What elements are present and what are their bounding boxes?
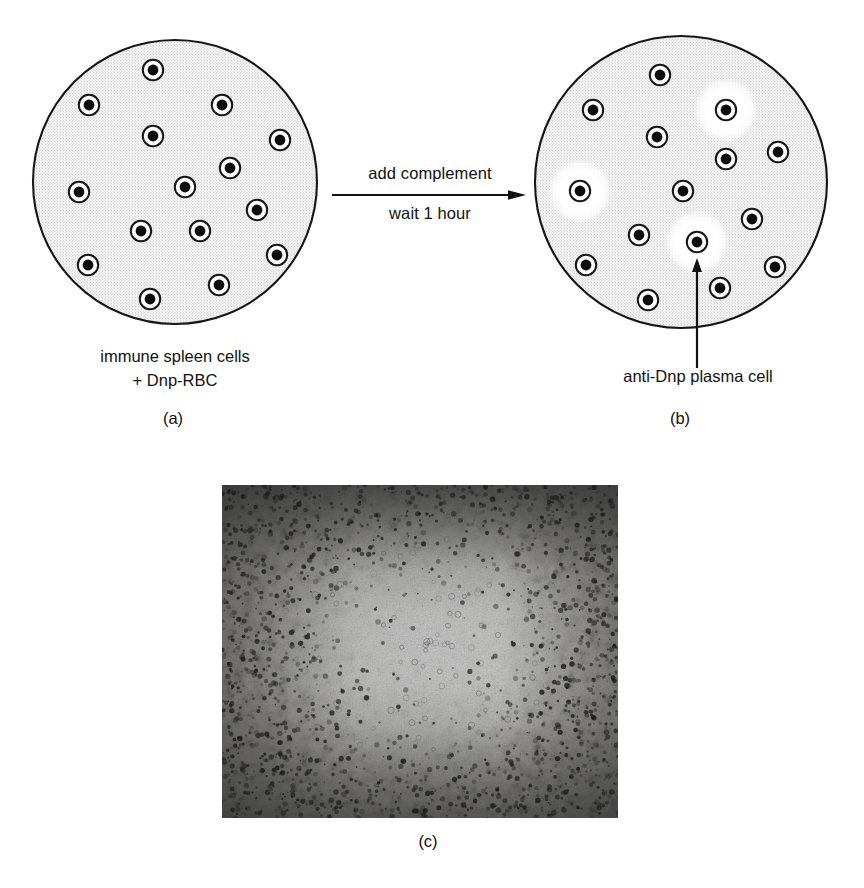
- micrograph-speck: [230, 541, 234, 545]
- micrograph-speck: [535, 760, 540, 765]
- micrograph-speck: [517, 807, 520, 810]
- micrograph-speck: [616, 661, 618, 663]
- micrograph-speck: [441, 580, 446, 585]
- micrograph-speck: [283, 801, 288, 806]
- micrograph-speck: [586, 587, 591, 592]
- micrograph-speck: [270, 788, 273, 791]
- micrograph-speck: [276, 575, 281, 580]
- micrograph-speck: [573, 563, 576, 566]
- micrograph-speck: [347, 557, 350, 560]
- micrograph-speck: [563, 790, 568, 795]
- micrograph-speck: [411, 763, 415, 767]
- micrograph-speck: [516, 705, 519, 708]
- micrograph-speck: [438, 502, 442, 506]
- micrograph-speck: [268, 754, 273, 759]
- micrograph-speck: [248, 504, 249, 505]
- micrograph-speck: [256, 503, 258, 505]
- micrograph-speck: [296, 502, 301, 507]
- micrograph-speck: [366, 737, 368, 739]
- micrograph-speck: [317, 520, 319, 522]
- micrograph-speck: [548, 811, 550, 813]
- micrograph-speck: [250, 559, 254, 563]
- micrograph-speck: [577, 729, 580, 732]
- micrograph-speck: [275, 704, 276, 705]
- micrograph-speck: [281, 779, 285, 783]
- figure-root: immune spleen cells + Dnp-RBC (a) add co…: [0, 0, 864, 888]
- micrograph-speck: [239, 737, 242, 740]
- micrograph-speck: [344, 508, 348, 512]
- micrograph-speck: [586, 771, 588, 773]
- micrograph-speck: [540, 516, 544, 520]
- micrograph-speck: [576, 716, 578, 718]
- micrograph-speck: [230, 669, 233, 672]
- micrograph-speck: [330, 806, 332, 808]
- micrograph-speck: [497, 769, 499, 771]
- micrograph-speck: [596, 491, 599, 494]
- micrograph-speck: [265, 640, 267, 642]
- micrograph-speck: [611, 743, 613, 745]
- micrograph-speck: [561, 618, 562, 619]
- micrograph-speck: [276, 699, 280, 703]
- micrograph-speck: [264, 679, 268, 683]
- micrograph-speck: [331, 506, 334, 509]
- micrograph-speck: [431, 799, 434, 802]
- micrograph-speck: [247, 581, 251, 585]
- micrograph-speck: [607, 681, 608, 682]
- micrograph-speck: [515, 488, 520, 493]
- micrograph-speck: [498, 508, 503, 513]
- micrograph-speck: [591, 747, 594, 750]
- micrograph-speck: [238, 625, 240, 627]
- micrograph-speck: [422, 568, 424, 570]
- micrograph-speck: [227, 662, 232, 667]
- micrograph-speck: [542, 724, 544, 726]
- micrograph-speck: [549, 758, 551, 760]
- micrograph-speck: [388, 564, 392, 568]
- micrograph-speck: [274, 594, 279, 599]
- micrograph-speck: [560, 496, 564, 500]
- micrograph-speck: [358, 686, 363, 691]
- cell-nucleus: [773, 147, 784, 158]
- micrograph-speck: [450, 492, 456, 498]
- micrograph-speck: [240, 621, 244, 625]
- micrograph-speck: [569, 491, 572, 494]
- micrograph-speck: [555, 548, 558, 551]
- micrograph-speck: [269, 489, 272, 492]
- panel-b-dish-svg: [500, 0, 864, 380]
- micrograph-speck: [393, 791, 395, 793]
- micrograph-speck: [554, 801, 556, 803]
- micrograph-speck: [594, 548, 596, 550]
- micrograph-speck: [223, 628, 225, 630]
- micrograph-speck: [499, 689, 501, 691]
- micrograph-speck: [243, 790, 247, 794]
- micrograph-speck: [602, 789, 604, 791]
- micrograph-speck: [244, 812, 247, 815]
- micrograph-speck: [224, 701, 229, 706]
- micrograph-speck: [278, 805, 281, 808]
- micrograph-speck: [542, 762, 544, 764]
- micrograph-speck: [522, 677, 526, 681]
- micrograph-speck: [374, 742, 379, 747]
- micrograph-speck: [586, 537, 591, 542]
- micrograph-speck: [253, 770, 256, 773]
- micrograph-speck: [327, 704, 330, 707]
- micrograph-speck: [584, 601, 589, 606]
- micrograph-speck: [565, 783, 567, 785]
- micrograph-speck: [315, 514, 319, 518]
- micrograph-speck: [350, 748, 356, 754]
- micrograph-speck: [509, 727, 512, 730]
- micrograph-speck: [593, 757, 598, 762]
- micrograph-speck: [574, 782, 578, 786]
- micrograph-speck: [608, 585, 610, 587]
- micrograph-speck: [550, 496, 555, 501]
- micrograph-speck: [236, 562, 240, 566]
- micrograph-speck: [237, 686, 240, 689]
- micrograph-speck: [608, 795, 612, 799]
- micrograph-speck: [295, 773, 298, 776]
- micrograph-speck: [280, 809, 282, 811]
- micrograph-speck: [260, 683, 263, 686]
- micrograph-speck: [561, 807, 567, 813]
- micrograph-speck: [258, 811, 262, 815]
- micrograph-speck: [478, 774, 482, 778]
- micrograph-speck: [572, 720, 575, 723]
- micrograph-speck: [500, 729, 503, 732]
